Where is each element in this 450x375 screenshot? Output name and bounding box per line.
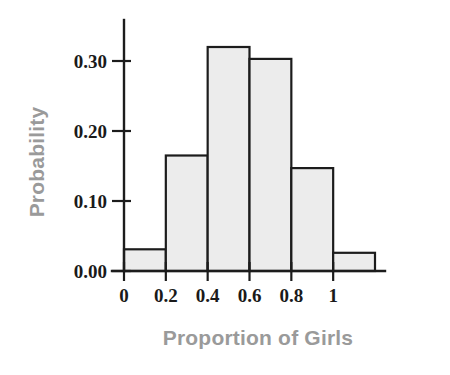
histogram-bar	[250, 59, 292, 271]
y-tick-label: 0.20	[74, 121, 107, 142]
x-tick-label: 0.6	[238, 285, 262, 306]
histogram-chart: 0.000.100.200.30 00.20.40.60.81 Probabil…	[0, 0, 450, 375]
y-tick-label: 0.00	[74, 261, 107, 282]
y-tick-label: 0.30	[74, 51, 107, 72]
x-tick-label: 0	[119, 285, 129, 306]
chart-figure: 0.000.100.200.30 00.20.40.60.81 Probabil…	[0, 0, 450, 375]
x-tick-label: 1	[328, 285, 338, 306]
histogram-bar	[208, 47, 250, 271]
histogram-bar	[333, 253, 375, 271]
x-tick-label: 0.4	[196, 285, 220, 306]
x-tick-label: 0.8	[279, 285, 303, 306]
x-axis-title: Proportion of Girls	[163, 326, 353, 349]
y-axis-title: Probability	[25, 107, 48, 218]
histogram-bar	[124, 249, 166, 271]
histogram-bar	[291, 168, 333, 271]
y-tick-label: 0.10	[74, 191, 107, 212]
x-tick-label: 0.2	[154, 285, 178, 306]
histogram-bar	[166, 156, 208, 272]
